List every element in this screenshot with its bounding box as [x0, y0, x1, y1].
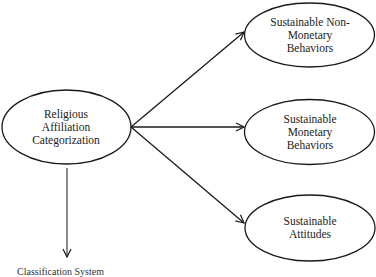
target-3-line-1: Sustainable — [254, 215, 366, 228]
source-node-label: Religious Affiliation Categorization — [16, 108, 116, 147]
target-3-line-2: Attitudes — [254, 228, 366, 241]
target-1-line-2: Monetary — [254, 29, 366, 42]
target-node-2-label: Sustainable Monetary Behaviors — [254, 113, 366, 152]
target-2-line-1: Sustainable — [254, 113, 366, 126]
target-node-1-label: Sustainable Non- Monetary Behaviors — [254, 16, 366, 55]
target-1-line-3: Behaviors — [254, 42, 366, 55]
target-2-line-2: Monetary — [254, 126, 366, 139]
target-2-line-3: Behaviors — [254, 139, 366, 152]
target-1-line-1: Sustainable Non- — [254, 16, 366, 29]
target-node-3-label: Sustainable Attitudes — [254, 215, 366, 241]
arrow-to-target-3 — [131, 127, 244, 223]
bottom-note: Classification System — [17, 266, 104, 277]
source-line-3: Categorization — [16, 134, 116, 147]
arrow-to-target-1 — [131, 32, 244, 127]
source-line-1: Religious — [16, 108, 116, 121]
source-line-2: Affiliation — [16, 121, 116, 134]
